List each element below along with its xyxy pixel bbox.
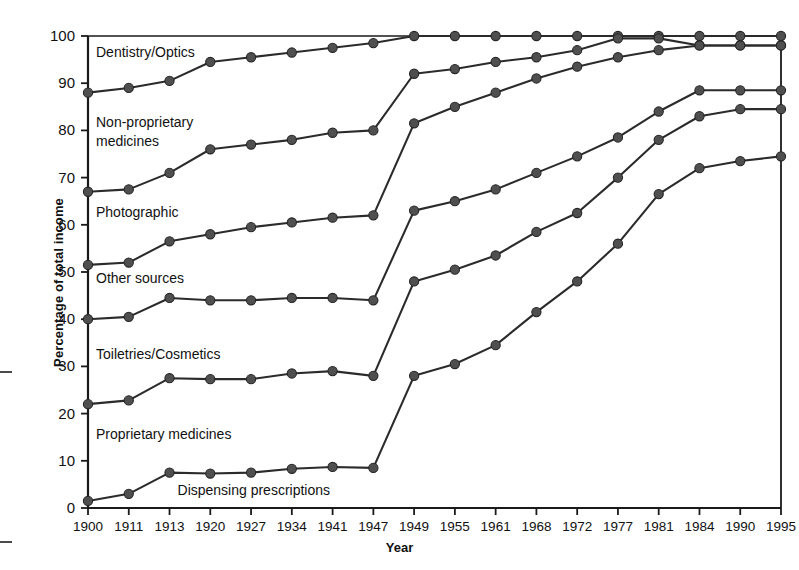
- data-point-marker: [532, 168, 541, 177]
- data-point-marker: [654, 135, 663, 144]
- data-point-marker: [328, 462, 337, 471]
- y-tick-label: 80: [33, 122, 75, 137]
- data-point-marker: [83, 315, 92, 324]
- data-point-marker: [165, 237, 174, 246]
- chart-figure: 0102030405060708090100190019111913192019…: [0, 0, 799, 570]
- data-point-marker: [124, 83, 133, 92]
- data-point-marker: [532, 74, 541, 83]
- data-point-marker: [450, 197, 459, 206]
- data-point-marker: [124, 489, 133, 498]
- data-point-marker: [613, 34, 622, 43]
- scan-artifact-top-left: [0, 371, 12, 373]
- data-point-marker: [613, 239, 622, 248]
- data-point-marker: [491, 57, 500, 66]
- x-tick-label: 1968: [515, 520, 557, 534]
- data-point-marker: [410, 31, 419, 40]
- data-point-marker: [165, 168, 174, 177]
- data-point-marker: [246, 468, 255, 477]
- data-point-marker: [573, 208, 582, 217]
- y-axis-title: Percentage of total income: [51, 153, 66, 413]
- data-point-marker: [410, 371, 419, 380]
- data-point-marker: [369, 126, 378, 135]
- data-point-marker: [328, 43, 337, 52]
- data-point-marker: [328, 293, 337, 302]
- x-axis-ticks: [88, 508, 781, 515]
- data-point-marker: [124, 396, 133, 405]
- data-point-marker: [83, 260, 92, 269]
- series-annotation-label: Dentistry/Optics: [96, 44, 195, 60]
- data-point-marker: [328, 128, 337, 137]
- data-point-marker: [165, 468, 174, 477]
- series-annotation-label: Non-proprietary: [96, 114, 193, 130]
- x-tick-label: 1947: [352, 520, 394, 534]
- data-point-marker: [573, 46, 582, 55]
- data-point-marker: [613, 133, 622, 142]
- data-point-marker: [450, 359, 459, 368]
- data-point-marker: [369, 463, 378, 472]
- data-point-marker: [287, 464, 296, 473]
- data-point-marker: [369, 38, 378, 47]
- data-point-marker: [736, 86, 745, 95]
- series-line: [88, 45, 781, 264]
- data-point-marker: [654, 46, 663, 55]
- data-point-marker: [83, 496, 92, 505]
- data-point-marker: [410, 69, 419, 78]
- x-tick-label: 1981: [638, 520, 680, 534]
- data-point-marker: [491, 341, 500, 350]
- x-tick-label: 1977: [597, 520, 639, 534]
- data-point-marker: [410, 277, 419, 286]
- data-point-marker: [776, 41, 785, 50]
- series-annotation-label: Other sources: [96, 270, 184, 286]
- data-point-marker: [369, 211, 378, 220]
- data-point-marker: [573, 277, 582, 286]
- data-point-marker: [491, 31, 500, 40]
- data-point-marker: [613, 53, 622, 62]
- x-tick-label: 1955: [434, 520, 476, 534]
- data-point-marker: [246, 296, 255, 305]
- data-point-marker: [328, 213, 337, 222]
- data-point-marker: [532, 53, 541, 62]
- data-point-marker: [165, 76, 174, 85]
- data-point-marker: [695, 31, 704, 40]
- x-tick-label: 1911: [108, 520, 150, 534]
- data-point-marker: [206, 57, 215, 66]
- data-point-marker: [532, 31, 541, 40]
- series-annotation-label: Dispensing prescriptions: [178, 482, 331, 498]
- data-point-marker: [736, 105, 745, 114]
- x-tick-label: 1961: [475, 520, 517, 534]
- data-point-marker: [450, 102, 459, 111]
- data-point-marker: [695, 164, 704, 173]
- x-tick-label: 1913: [149, 520, 191, 534]
- data-point-marker: [369, 296, 378, 305]
- data-point-marker: [287, 369, 296, 378]
- data-point-marker: [654, 34, 663, 43]
- data-point-marker: [573, 31, 582, 40]
- data-point-marker: [736, 156, 745, 165]
- data-series: [83, 105, 785, 409]
- data-point-marker: [654, 190, 663, 199]
- data-point-marker: [573, 62, 582, 71]
- data-point-marker: [776, 31, 785, 40]
- data-point-marker: [206, 145, 215, 154]
- y-tick-label: 100: [33, 28, 75, 43]
- data-point-marker: [410, 119, 419, 128]
- data-point-marker: [206, 375, 215, 384]
- data-point-marker: [124, 312, 133, 321]
- x-tick-label: 1900: [67, 520, 109, 534]
- data-point-marker: [532, 308, 541, 317]
- data-point-marker: [124, 185, 133, 194]
- series-line: [88, 156, 781, 501]
- data-point-marker: [369, 371, 378, 380]
- x-tick-label: 1941: [312, 520, 354, 534]
- series-annotation-label: medicines: [96, 133, 159, 149]
- data-point-marker: [450, 265, 459, 274]
- data-point-marker: [246, 140, 255, 149]
- data-point-marker: [776, 86, 785, 95]
- x-tick-label: 1949: [393, 520, 435, 534]
- data-point-marker: [206, 469, 215, 478]
- data-point-marker: [287, 293, 296, 302]
- data-point-marker: [246, 223, 255, 232]
- x-tick-label: 1927: [230, 520, 272, 534]
- data-point-marker: [328, 367, 337, 376]
- data-point-marker: [736, 31, 745, 40]
